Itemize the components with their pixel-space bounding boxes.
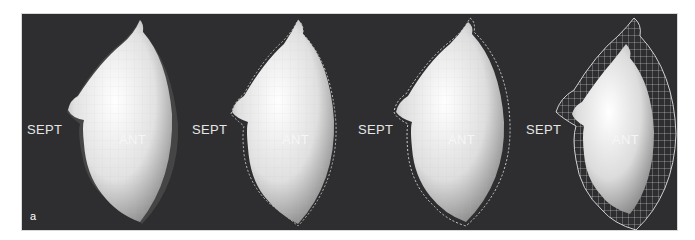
heart-view-2: SEPT ANT — [186, 14, 350, 230]
heart-view-4: SEPT ANT — [514, 14, 678, 230]
figure-panel: SEPT ANT SEPT — [22, 14, 677, 230]
anterior-label: ANT — [448, 132, 475, 147]
heart-view-3: SEPT ANT — [350, 14, 514, 230]
anterior-label: ANT — [119, 132, 146, 147]
mesh-grid — [396, 22, 504, 222]
ventricle-surface-4 — [514, 14, 678, 230]
heart-view-1: SEPT ANT — [22, 14, 186, 230]
anterior-label: ANT — [612, 132, 639, 147]
panel-label: a — [30, 210, 36, 222]
anterior-label: ANT — [282, 132, 309, 147]
ventricle-surface-3 — [350, 14, 514, 230]
ventricle-surface-1 — [22, 14, 186, 230]
mesh-grid — [232, 20, 334, 224]
ventricle-surface-2 — [186, 14, 350, 230]
